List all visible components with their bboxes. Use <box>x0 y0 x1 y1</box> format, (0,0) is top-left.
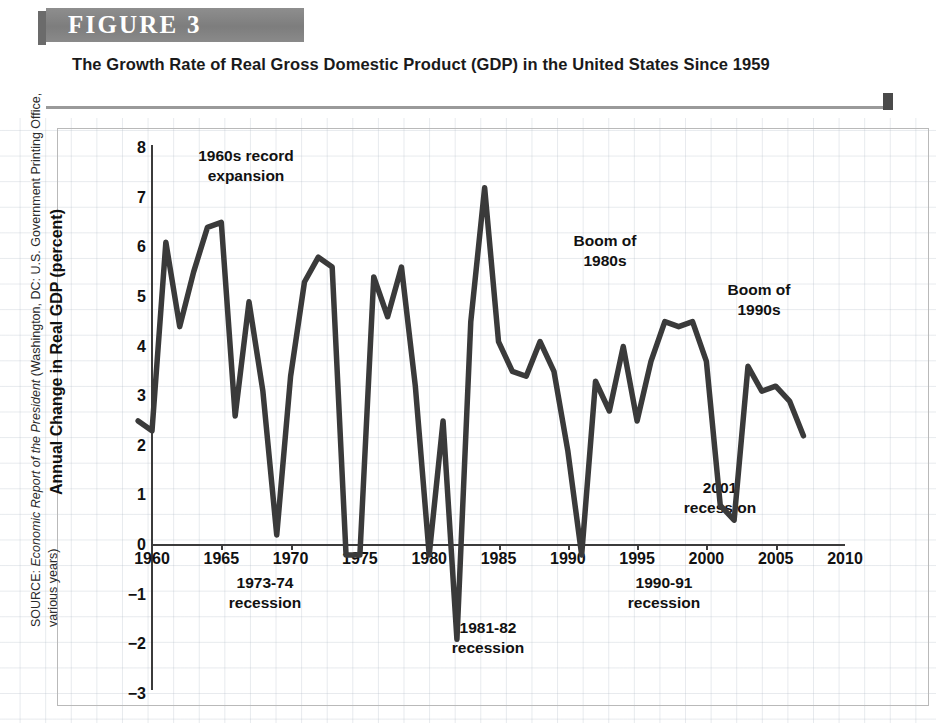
annotation-boom-1980s: Boom of 1980s <box>530 231 680 271</box>
source-title: Economic Report of the President <box>29 380 43 567</box>
y-tick-5: 5 <box>116 289 146 305</box>
annotation-recession-2001: 2001 recession <box>645 478 795 518</box>
y-tick-neg2: −2 <box>116 636 146 652</box>
x-tick-mark-1980 <box>429 544 431 550</box>
source-prefix: SOURCE: <box>29 567 43 627</box>
annotation-recession-1973-74: 1973-74 recession <box>190 573 340 613</box>
x-tick-1960: 1960 <box>122 550 182 568</box>
title-divider-endcap <box>883 93 893 110</box>
chart-area: Annual Change in Real GDP (percent) 8765… <box>0 118 936 723</box>
x-tick-1990: 1990 <box>538 550 598 568</box>
x-tick-1985: 1985 <box>469 550 529 568</box>
annotation-recession-1981-82: 1981-82 recession <box>413 618 563 658</box>
y-axis-tick-labels: 876543210−1−2−3 <box>110 118 146 698</box>
y-axis-line <box>151 145 153 690</box>
x-tick-1995: 1995 <box>607 550 667 568</box>
y-tick-1: 1 <box>116 487 146 503</box>
x-tick-2005: 2005 <box>746 550 806 568</box>
y-tick-neg3: −3 <box>116 686 146 702</box>
banner-notch <box>38 11 46 45</box>
y-tick-3: 3 <box>116 388 146 404</box>
x-tick-mark-1985 <box>499 544 501 550</box>
annotation-expansion-1960s: 1960s record expansion <box>171 146 321 186</box>
x-tick-mark-1975 <box>360 544 362 550</box>
figure-banner: FIGURE 3 <box>46 8 304 42</box>
source-note: SOURCE: Economic Report of the President… <box>28 67 62 627</box>
x-tick-mark-2005 <box>776 544 778 550</box>
title-divider <box>46 106 888 109</box>
y-tick-8: 8 <box>116 140 146 156</box>
x-tick-mark-1990 <box>568 544 570 550</box>
x-tick-mark-1965 <box>221 544 223 550</box>
annotation-boom-1990s: Boom of 1990s <box>684 280 834 320</box>
y-tick-7: 7 <box>116 190 146 206</box>
x-tick-1970: 1970 <box>261 550 321 568</box>
x-tick-mark-2000 <box>706 544 708 550</box>
x-tick-mark-1970 <box>291 544 293 550</box>
annotation-recession-1990-91: 1990-91 recession <box>589 573 739 613</box>
figure-title: The Growth Rate of Real Gross Domestic P… <box>72 52 862 77</box>
y-tick-6: 6 <box>116 239 146 255</box>
y-tick-2: 2 <box>116 438 146 454</box>
x-tick-1975: 1975 <box>330 550 390 568</box>
x-tick-1980: 1980 <box>399 550 459 568</box>
x-tick-2010: 2010 <box>815 550 875 568</box>
y-tick-4: 4 <box>116 339 146 355</box>
x-tick-1965: 1965 <box>191 550 251 568</box>
x-tick-mark-1995 <box>637 544 639 550</box>
figure-number-label: FIGURE 3 <box>68 11 202 39</box>
x-tick-2000: 2000 <box>676 550 736 568</box>
y-tick-neg1: −1 <box>116 587 146 603</box>
